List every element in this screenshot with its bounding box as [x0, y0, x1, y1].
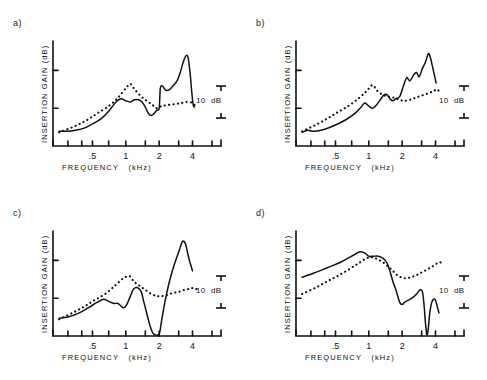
panel-d: d) INSERTION GAIN (dB) FREQUENCY (kHz) 1… — [243, 190, 486, 380]
series-solid — [59, 55, 194, 131]
x-tick-label: .5 — [332, 151, 340, 161]
scale-bar — [216, 276, 226, 308]
x-tick-label: 4 — [433, 341, 438, 351]
x-tick-label: 1 — [123, 151, 128, 161]
x-tick-label: .5 — [332, 341, 340, 351]
scale-bar — [216, 86, 226, 118]
panel-c: c) INSERTION GAIN (dB) FREQUENCY (kHz) 1… — [0, 190, 243, 380]
plot-area-d: .5124 — [243, 190, 486, 380]
panel-a: a) INSERTION GAIN (dB) FREQUENCY (kHz) 1… — [0, 0, 243, 190]
series-solid — [59, 241, 192, 335]
x-tick-label: 4 — [190, 341, 195, 351]
series-dotted — [59, 84, 195, 132]
axis-lines — [296, 231, 464, 336]
x-tick-label: .5 — [89, 341, 97, 351]
x-tick-label: 4 — [190, 151, 195, 161]
x-tick-label: 2 — [400, 151, 405, 161]
axis-lines — [53, 231, 221, 336]
x-tick-label: 1 — [366, 341, 371, 351]
x-tick-label: 2 — [400, 341, 405, 351]
scale-bar — [459, 86, 469, 118]
scale-bar — [459, 276, 469, 308]
x-tick-label: .5 — [89, 151, 97, 161]
x-tick-label: 2 — [157, 341, 162, 351]
x-tick-label: 1 — [123, 341, 128, 351]
plot-area-b: .5124 — [243, 0, 486, 190]
plot-area-a: .5124 — [0, 0, 243, 190]
x-tick-label: 4 — [433, 151, 438, 161]
series-solid — [302, 252, 439, 335]
series-dotted — [302, 257, 441, 294]
plot-area-c: .5124 — [0, 190, 243, 380]
x-tick-label: 2 — [157, 151, 162, 161]
x-tick-label: 1 — [366, 151, 371, 161]
panel-b: b) INSERTION GAIN (dB) FREQUENCY (kHz) 1… — [243, 0, 486, 190]
